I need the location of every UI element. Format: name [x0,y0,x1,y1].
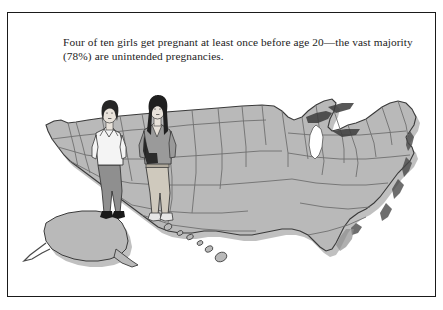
alaska-inset [24,211,138,267]
figure-page: Four of ten girls get pregnant at least … [0,0,443,310]
figure-frame: Four of ten girls get pregnant at least … [7,12,436,297]
illustration-area [16,73,443,309]
figure-caption: Four of ten girls get pregnant at least … [63,35,415,63]
united-states-map [16,73,443,309]
